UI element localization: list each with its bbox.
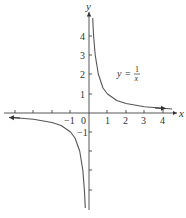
curve-negative-branch — [11, 118, 85, 209]
y-tick-label-1: 1 — [80, 89, 85, 100]
curve-positive-arrow — [155, 108, 166, 109]
x-tick-label-0: 0 — [81, 115, 86, 126]
x-tick-label-2: 2 — [123, 115, 128, 126]
y-tick-label-4: 4 — [80, 31, 85, 42]
y-axis-label: y — [85, 0, 91, 12]
y-axis: y 4 3 2 1 −1 — [77, 0, 92, 210]
x-tick-label-neg1: −1 — [64, 115, 75, 126]
x-axis: x −1 0 1 2 3 4 — [4, 107, 184, 126]
x-tick-label-3: 3 — [141, 115, 146, 126]
equation-numerator: 1 — [135, 65, 139, 74]
y-tick-label-neg1: −1 — [77, 127, 88, 138]
x-tick-label-4: 4 — [160, 115, 165, 126]
equation-equals: = — [125, 68, 131, 79]
equation-label: y = 1 x — [116, 65, 140, 83]
hyperbola-plot: x −1 0 1 2 3 4 y 4 3 2 1 −1 y = — [0, 0, 186, 218]
equation-lhs: y — [116, 68, 122, 79]
x-tick-label-1: 1 — [105, 115, 110, 126]
x-axis-label: x — [178, 107, 184, 119]
y-tick-label-3: 3 — [80, 50, 85, 61]
curve-positive-branch — [93, 18, 172, 109]
curve-negative-arrow — [9, 118, 20, 119]
equation-denominator: x — [134, 74, 139, 83]
y-tick-label-2: 2 — [80, 69, 85, 80]
